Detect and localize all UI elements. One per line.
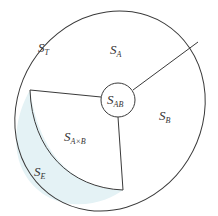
label-s-axb: SA×B bbox=[64, 129, 86, 146]
label-s-a: SA bbox=[110, 42, 122, 59]
divider-left bbox=[30, 90, 101, 97]
divider-top-right bbox=[133, 42, 198, 90]
divider-bottom bbox=[118, 117, 123, 190]
set-diagram: ST SA SB SAB SA×B SE bbox=[0, 0, 218, 216]
label-s-b: SB bbox=[159, 108, 171, 125]
